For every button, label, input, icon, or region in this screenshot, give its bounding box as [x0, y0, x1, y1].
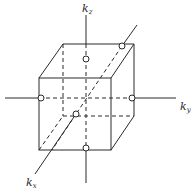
- point-kz-bottom: [83, 145, 89, 151]
- label-kz: kz: [82, 2, 93, 16]
- point-ky-right: [129, 95, 135, 101]
- point-kx-front: [73, 111, 79, 117]
- label-ky: ky: [180, 100, 192, 114]
- point-ky-left: [38, 95, 44, 101]
- label-kx: kx: [26, 176, 37, 190]
- cube-diagram: kz ky kx: [0, 0, 192, 195]
- point-kz-top: [83, 56, 89, 62]
- point-kx-back: [119, 43, 125, 49]
